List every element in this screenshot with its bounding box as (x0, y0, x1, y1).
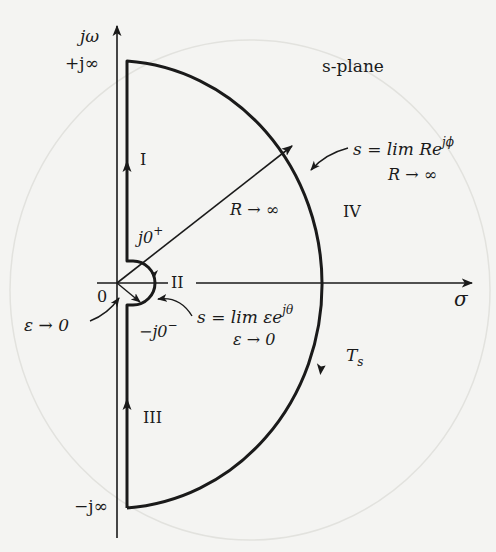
radius-label: R → ∞ (229, 200, 279, 219)
imag-axis-label: jω (76, 26, 99, 46)
contour-label: Ts (346, 345, 364, 369)
epsilon-radius-line (117, 283, 140, 302)
nyquist-contour-diagram: jω +j∞ −j∞ 0 σ s-plane I II III IV j0+ −… (0, 0, 496, 552)
nyquist-contour-path (127, 61, 322, 508)
plus-j-infinity-label: +j∞ (65, 53, 99, 73)
section-i-label: I (140, 150, 146, 169)
section-iv-arrow-icon (315, 363, 325, 375)
section-ii-label: II (171, 273, 184, 292)
s-plane-title: s-plane (322, 56, 384, 76)
j0-minus-label: −j0− (139, 318, 178, 341)
small-arc-limit: ε → 0 (233, 330, 275, 349)
section-iv-label: IV (343, 202, 361, 221)
large-arc-limit: R → ∞ (387, 165, 437, 184)
small-arc-leader-line (158, 299, 192, 316)
j0-plus-label: j0+ (135, 224, 163, 247)
section-iii-label: III (143, 408, 162, 427)
small-arc-equation: s = lim εejθ (197, 303, 294, 327)
minus-j-infinity-label: −j∞ (74, 496, 108, 516)
large-arc-equation: s = lim Rejϕ (353, 135, 454, 159)
large-arc-leader-line (311, 148, 348, 170)
epsilon-label: ε → 0 (24, 315, 69, 335)
real-axis-label: σ (454, 287, 469, 311)
small-arc-arrow-icon (150, 270, 158, 279)
origin-label: 0 (97, 287, 107, 306)
